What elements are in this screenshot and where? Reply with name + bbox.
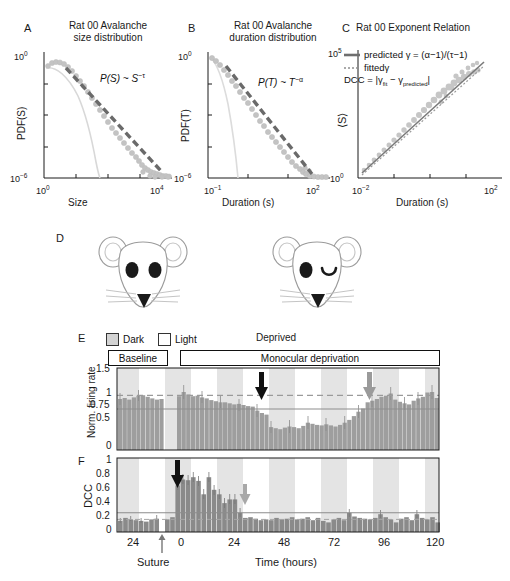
panel-f-xtick-96: 96 — [378, 536, 390, 548]
mouse1-left-eye — [126, 262, 139, 278]
panel-f-xtick-72: 72 — [328, 536, 340, 548]
panel-c-ytick-top: 105 — [328, 47, 342, 59]
panel-f-xtick-24: 24 — [228, 536, 240, 548]
legend-dark: Dark — [106, 333, 144, 346]
panel-f-xtick-0: 0 — [178, 536, 184, 548]
panel-a-annotation: P(S) ~ S−τ — [100, 72, 145, 84]
monocular-deprivation-bar: Monocular deprivation — [180, 350, 440, 366]
light-swatch-icon — [158, 333, 171, 346]
panel-f-xtick-120: 120 — [426, 536, 444, 548]
panel-f-plot — [117, 458, 439, 532]
panel-f-xtick-48: 48 — [278, 536, 290, 548]
panel-f-ytick-06: 0.6 — [96, 482, 110, 493]
panel-c-xlabel: Duration (s) — [396, 197, 448, 208]
panel-f-xtick-minus24: 24 — [127, 536, 139, 548]
panel-c-legend-fitted: fittedγ — [364, 62, 389, 73]
panel-f-ylabel: DCC — [82, 484, 94, 508]
panel-a-letter: A — [24, 22, 31, 34]
panel-b-annotation: P(T) ~ T−α — [258, 76, 303, 88]
panel-a-title-line2: size distribution — [48, 32, 168, 44]
panel-c-legend: predicted γ = (α−1)/(τ−1) fittedγ DCC = … — [344, 48, 468, 87]
panel-a-ytick-top: 100 — [14, 50, 28, 62]
panel-c-legend-predicted: predicted γ = (α−1)/(τ−1) — [364, 49, 468, 60]
panel-b-letter: B — [188, 22, 195, 34]
panel-c-ylabel: ⟨S⟩ — [336, 113, 349, 128]
panel-b-ytick-bottom: 10−6 — [174, 172, 191, 184]
panel-f-ytick-1: 1 — [106, 454, 112, 465]
panel-b-title: Rat 00 Avalanche duration distribution — [208, 20, 338, 44]
panel-c-legend-dcc: DCC = |γfit − γpredicted| — [344, 74, 430, 87]
panel-f-ytick-02: 0.2 — [96, 510, 110, 521]
panel-e-ytick-05: 0.5 — [96, 412, 110, 423]
suture-arrow-icon — [155, 533, 169, 553]
legend-light-label: Light — [175, 334, 197, 345]
panel-a-title-line1: Rat 00 Avalanche — [48, 20, 168, 32]
deprived-label: Deprived — [256, 332, 296, 343]
panel-b-xtick-right: 102 — [306, 184, 320, 196]
panel-f-letter: F — [78, 455, 85, 467]
dark-swatch-icon — [106, 333, 119, 346]
panel-c-letter: C — [342, 22, 350, 34]
baseline-bar: Baseline — [108, 350, 168, 366]
panel-e-letter: E — [78, 332, 85, 344]
panel-a-xtick-right: 104 — [150, 184, 164, 196]
panel-f-ytick-08: 0.8 — [96, 468, 110, 479]
panel-b-title-line2: duration distribution — [208, 32, 338, 44]
panel-a-title: Rat 00 Avalanche size distribution — [48, 20, 168, 44]
panel-e-ytick-1_5: 1.5 — [96, 363, 110, 374]
panel-a-ytick-bottom: 10−6 — [10, 172, 27, 184]
figure-root: A Rat 00 Avalanche size distribution 100… — [0, 0, 510, 581]
legend-dark-label: Dark — [123, 334, 144, 345]
mouse-head-one-eye-sutured — [262, 228, 372, 318]
panel-f-ytick-0: 0 — [106, 524, 112, 535]
panel-a-ylabel: PDF(S) — [16, 107, 27, 140]
legend-solid-line-icon — [344, 52, 360, 58]
panel-b-title-line1: Rat 00 Avalanche — [208, 20, 338, 32]
mouse1-right-eye — [149, 262, 162, 278]
panel-f-ytick-04: 0.4 — [96, 496, 110, 507]
panel-b-plot — [206, 52, 332, 180]
panel-e-ytick-0: 0 — [106, 440, 112, 451]
panel-b-ylabel: PDF(T) — [180, 109, 191, 142]
panel-d-letter: D — [56, 232, 64, 244]
panel-e-plot — [117, 368, 439, 450]
panel-b-xtick-left: 10−1 — [204, 184, 221, 196]
panel-c-title: Rat 00 Exponent Relation — [356, 22, 506, 34]
panel-e-ytick-1: 1 — [106, 387, 112, 398]
panel-c-ytick-bottom: 100 — [330, 172, 344, 184]
panel-b-xlabel: Duration (s) — [222, 197, 274, 208]
panel-f-xlabel: Time (hours) — [255, 556, 317, 568]
mouse2-open-eye — [300, 262, 313, 278]
panel-c-xtick-right: 102 — [484, 184, 498, 196]
mouse-head-both-eyes-open — [88, 228, 198, 318]
panel-e-ytick-075: 0.75 — [90, 399, 109, 410]
panel-b-ytick-top: 100 — [178, 50, 192, 62]
suture-label: Suture — [137, 556, 169, 568]
panel-c-xtick-left: 10−2 — [352, 184, 369, 196]
panel-a-xlabel: Size — [68, 197, 87, 208]
panel-a-xtick-left: 100 — [36, 184, 50, 196]
legend-dotted-line-icon — [344, 65, 360, 71]
legend-light: Light — [158, 333, 197, 346]
